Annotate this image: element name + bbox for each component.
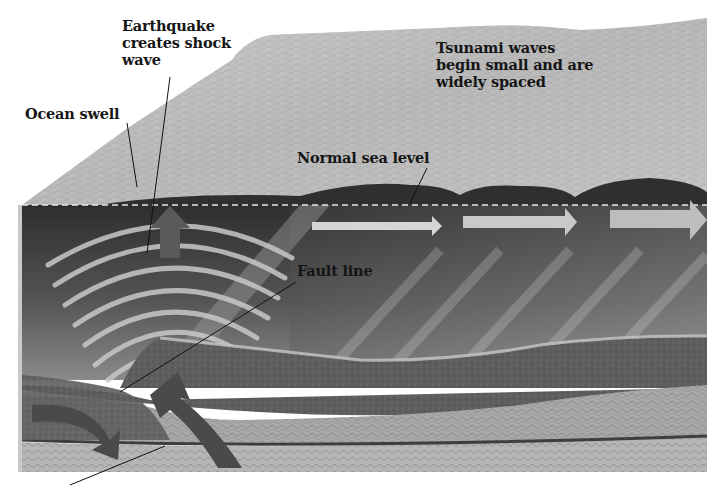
sea-level-label: Normal sea level <box>297 149 429 166</box>
earthquake-label: Earthquake creates shock wave <box>122 17 231 68</box>
tsunami-waves-label: Tsunami waves begin small and are widely… <box>436 39 593 90</box>
tsunami-diagram: Earthquake creates shock wave Ocean swel… <box>0 0 707 488</box>
fault-line-label: Fault line <box>297 262 372 279</box>
diagram-illustration <box>0 0 707 488</box>
ocean-swell-label: Ocean swell <box>25 105 119 122</box>
